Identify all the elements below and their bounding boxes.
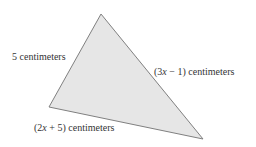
triangle-diagram: 5 centimeters (3x − 1) centimeters (2x +… (0, 0, 256, 147)
bottom-side-label: (2x + 5) centimeters (34, 122, 114, 134)
right-side-label: (3x − 1) centimeters (154, 66, 234, 78)
left-side-label: 5 centimeters (12, 51, 66, 62)
